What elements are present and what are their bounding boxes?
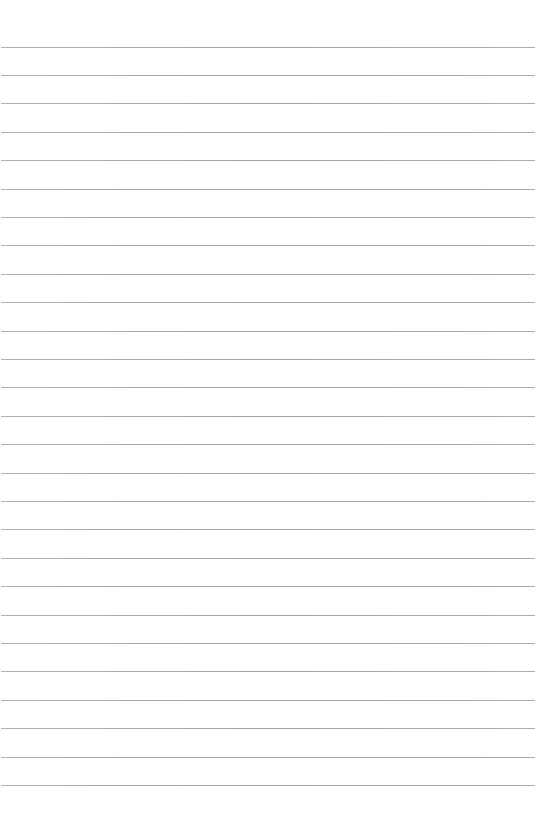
ruled-line <box>1 47 535 48</box>
ruled-line <box>1 728 535 729</box>
ruled-line <box>1 473 535 474</box>
ruled-line <box>1 558 535 559</box>
ruled-line <box>1 103 535 104</box>
ruled-line <box>1 643 535 644</box>
ruled-line <box>1 416 535 417</box>
ruled-line <box>1 217 535 218</box>
ruled-line <box>1 189 535 190</box>
ruled-line <box>1 444 535 445</box>
ruled-line <box>1 501 535 502</box>
lined-paper-sheet <box>0 0 537 835</box>
ruled-line <box>1 529 535 530</box>
ruled-line <box>1 331 535 332</box>
ruled-line <box>1 274 535 275</box>
ruled-line <box>1 160 535 161</box>
ruled-line <box>1 359 535 360</box>
ruled-line <box>1 75 535 76</box>
ruled-line <box>1 302 535 303</box>
ruled-line <box>1 671 535 672</box>
ruled-line <box>1 586 535 587</box>
ruled-line <box>1 700 535 701</box>
ruled-line <box>1 245 535 246</box>
ruled-line <box>1 757 535 758</box>
ruled-line <box>1 785 535 786</box>
ruled-line <box>1 615 535 616</box>
ruled-line <box>1 387 535 388</box>
ruled-line <box>1 132 535 133</box>
